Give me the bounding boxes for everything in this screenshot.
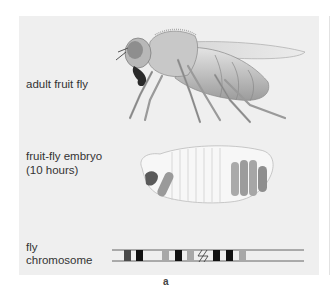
chromosome-break-icon bbox=[198, 250, 208, 262]
chromosome-bands bbox=[124, 250, 246, 261]
panel-letter: a bbox=[163, 276, 169, 287]
chromosome-diagram bbox=[0, 0, 332, 290]
